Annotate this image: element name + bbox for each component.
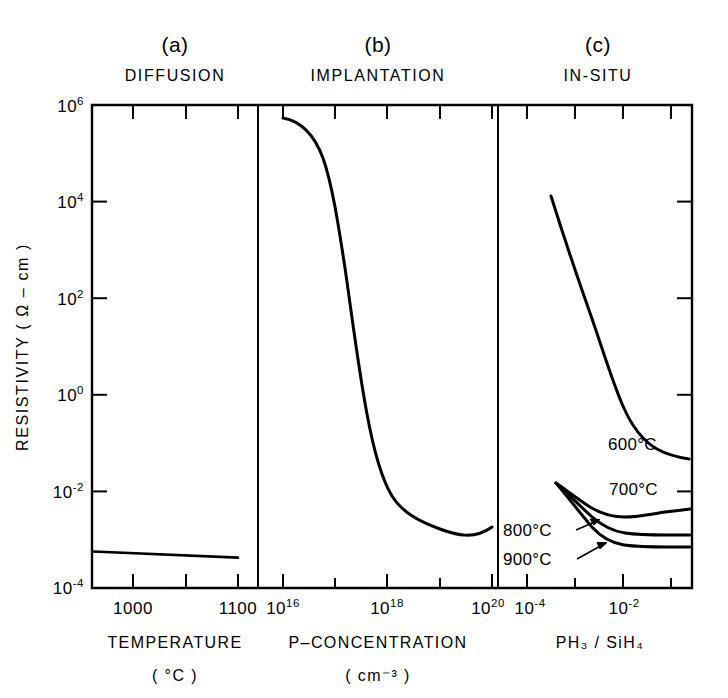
x-tick-label-b-1e20: 1020	[471, 597, 505, 618]
panel-method-a: DIFFUSION	[125, 67, 226, 84]
y-axis-ticks-right	[677, 202, 692, 492]
curve-600c	[551, 196, 689, 459]
curve-label-700c: 700°C	[609, 480, 658, 499]
resistivity-figure: (a) DIFFUSION (b) IMPLANTATION (c) IN-SI…	[0, 0, 728, 698]
curve-label-800c: 800°C	[503, 521, 552, 540]
y-axis-ticks-left	[92, 202, 107, 492]
x-tick-label-a-1000: 1000	[113, 599, 153, 618]
x-axis-title-c: PH₃ / SiH₄	[556, 634, 644, 651]
x-tick-label-c-1e-2: 10-2	[608, 597, 639, 618]
y-axis-title: RESISTIVITY ( Ω – cm )	[14, 243, 31, 451]
curve-diffusion	[93, 552, 238, 558]
panel-label-c: (c)	[585, 33, 611, 56]
panel-a-curves	[93, 552, 238, 558]
x-axis-title-b: P–CONCENTRATION	[289, 634, 468, 651]
panel-label-a: (a)	[161, 33, 188, 56]
y-axis-tick-labels: 106 104 102 100 10-2 10-4	[53, 95, 84, 598]
x-tick-label-a-1100: 1100	[219, 599, 258, 618]
x-axis-units-a: ( °C )	[152, 667, 198, 684]
bottom-axis-ticks	[133, 574, 671, 588]
x-tick-label-b-1e18: 1018	[370, 597, 404, 618]
y-tick-label-1e6: 106	[57, 95, 84, 116]
top-axis-ticks	[133, 105, 671, 119]
x-axis-title-a: TEMPERATURE	[107, 634, 242, 651]
panel-label-b: (b)	[364, 33, 391, 56]
y-tick-label-1e2: 102	[57, 288, 84, 309]
x-axis-units-b: ( cm⁻³ )	[345, 667, 410, 684]
y-tick-label-1e-2: 10-2	[53, 481, 84, 502]
x-tick-labels-panel-a: 1000 1100	[113, 599, 257, 618]
y-tick-label-1e-4: 10-4	[53, 577, 84, 598]
x-tick-label-b-1e16: 1016	[266, 597, 300, 618]
panel-method-b: IMPLANTATION	[310, 67, 445, 84]
panel-b-curves	[283, 118, 492, 535]
leader-arrow-900c	[597, 543, 607, 550]
figure-root: (a) DIFFUSION (b) IMPLANTATION (c) IN-SI…	[0, 0, 728, 698]
x-tick-labels-panel-c: 10-4 10-2	[514, 597, 639, 618]
y-tick-label-1e4: 104	[57, 191, 84, 212]
x-tick-label-c-1e-4: 10-4	[514, 597, 545, 618]
panel-method-c: IN-SITU	[564, 67, 633, 84]
curve-label-600c: 600°C	[608, 435, 657, 454]
x-tick-labels-panel-b: 1016 1018 1020	[266, 597, 505, 618]
curve-implantation	[283, 118, 492, 535]
y-tick-label-1e0: 100	[57, 384, 84, 405]
curve-label-900c: 900°C	[503, 550, 552, 569]
